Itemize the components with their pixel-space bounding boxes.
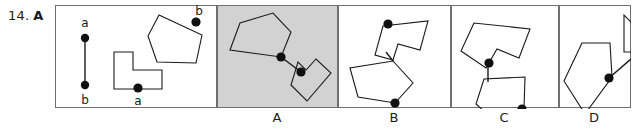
panel-option-a[interactable] <box>218 6 338 108</box>
panel-option-d-frame[interactable] <box>560 6 631 108</box>
stimulus-segment-label-b: b <box>81 93 89 107</box>
panel-option-d[interactable] <box>560 6 632 110</box>
answer-key-letter: A <box>33 8 43 23</box>
stimulus-pentagon-dot-b <box>191 17 200 26</box>
option-b-dot-lshape <box>383 19 392 28</box>
option-letter-c: C <box>484 110 524 125</box>
option-letter-row: A B C D <box>55 110 631 130</box>
option-d-dot-pentagon <box>604 73 613 82</box>
option-a-dot-lshape <box>296 67 305 76</box>
option-c-dot-lshape <box>484 58 493 67</box>
figure-strip: a b a b <box>55 5 631 109</box>
panel-option-c[interactable] <box>452 6 559 110</box>
option-letter-d: D <box>574 110 614 125</box>
panel-option-c-frame[interactable] <box>452 6 559 108</box>
option-b-dot-pentagon <box>390 98 399 107</box>
stimulus-segment-label-a: a <box>81 16 88 30</box>
stimulus-pentagon-label-b: b <box>195 5 203 18</box>
stimulus-segment-dot-a <box>81 34 89 42</box>
question-number-block: 14.A <box>8 8 44 23</box>
option-letter-b: B <box>374 110 414 125</box>
stimulus-segment-dot-b <box>81 81 89 89</box>
panel-option-b[interactable] <box>339 6 451 108</box>
exercise-item: 14.A a b a <box>0 0 639 132</box>
stimulus-lshape-dot-a <box>133 83 142 92</box>
question-number: 14. <box>8 8 29 23</box>
option-a-dot-pentagon <box>276 52 285 61</box>
stimulus-lshape-label-a: a <box>134 94 141 108</box>
option-letter-a: A <box>257 110 297 125</box>
panel-stimulus: a b a b <box>56 5 217 108</box>
